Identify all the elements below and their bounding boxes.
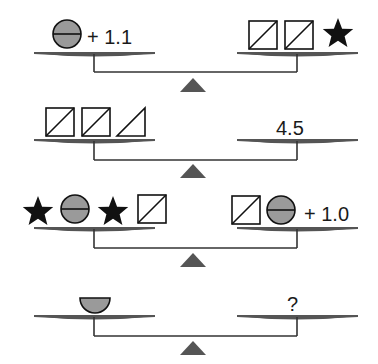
scale-1-right-pan bbox=[237, 18, 358, 72]
square-icon bbox=[46, 108, 74, 136]
circle-icon bbox=[267, 196, 295, 224]
triangle-icon bbox=[117, 108, 145, 136]
star-icon bbox=[23, 196, 53, 225]
scale-1-left-pan: + 1.1 bbox=[34, 20, 155, 72]
scale-2-right-label: 4.5 bbox=[276, 117, 304, 139]
scale-2-right-pan: 4.5 bbox=[237, 117, 358, 160]
scale-4-left-pan bbox=[34, 298, 155, 336]
scale-2: 4.5 bbox=[34, 108, 358, 178]
scale-3-left-pan bbox=[23, 195, 166, 248]
square-icon bbox=[82, 108, 110, 136]
circle-icon bbox=[53, 20, 81, 48]
scale-1-left-label: + 1.1 bbox=[87, 26, 132, 48]
square-icon bbox=[249, 21, 277, 49]
scale-3-right-pan: + 1.0 bbox=[232, 196, 358, 248]
scale-3-right-label: + 1.0 bbox=[304, 203, 349, 225]
square-icon bbox=[285, 21, 313, 49]
square-icon bbox=[138, 195, 166, 223]
balance-puzzle-diagram: + 1.1 4.5 bbox=[0, 0, 378, 364]
scale-2-left-pan bbox=[34, 108, 155, 160]
scale-3: + 1.0 bbox=[23, 195, 358, 267]
fulcrum-icon bbox=[180, 164, 206, 178]
circle-icon bbox=[61, 195, 89, 223]
fulcrum-icon bbox=[180, 253, 206, 267]
square-icon bbox=[232, 196, 260, 224]
star-icon bbox=[323, 18, 353, 47]
star-icon bbox=[98, 196, 128, 225]
scale-4: ? bbox=[34, 293, 358, 355]
scale-4-right-pan: ? bbox=[237, 293, 358, 336]
fulcrum-icon bbox=[180, 341, 206, 355]
scale-1: + 1.1 bbox=[34, 18, 358, 92]
half-circle-icon bbox=[80, 298, 110, 313]
fulcrum-icon bbox=[180, 78, 206, 92]
scale-4-right-label: ? bbox=[287, 293, 298, 315]
